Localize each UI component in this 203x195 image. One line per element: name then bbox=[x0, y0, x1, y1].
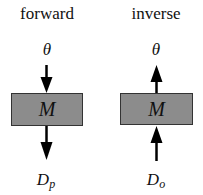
arrows-layer bbox=[0, 0, 203, 195]
forward-input-arrow-icon bbox=[41, 65, 53, 93]
inverse-input-arrow-icon bbox=[151, 126, 163, 161]
forward-output-arrow-icon bbox=[41, 126, 53, 160]
inverse-output-arrow-icon bbox=[151, 65, 163, 93]
